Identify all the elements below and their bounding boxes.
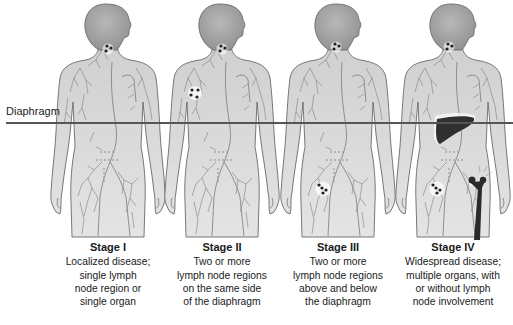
stage-description-line: above and below bbox=[278, 282, 398, 295]
stage-description-line: Widespread disease; bbox=[393, 255, 513, 268]
stage-description-line: Localized disease; bbox=[48, 255, 168, 268]
stage-description-line: Two or more bbox=[278, 255, 398, 268]
lymph-node-cluster-neck bbox=[444, 42, 455, 53]
stage-title: Stage III bbox=[278, 241, 398, 254]
stage-description-line: lymph node regions bbox=[278, 269, 398, 282]
lymph-node-cluster-neck bbox=[103, 44, 114, 55]
lymph-node-cluster-groin bbox=[430, 182, 445, 197]
stage-description-line: lymph node regions bbox=[162, 269, 282, 282]
diaphragm-line bbox=[6, 122, 513, 124]
stage-description-line: multiple organs, with bbox=[393, 269, 513, 282]
figure-stage-1 bbox=[51, 4, 165, 237]
lymph-node-cluster-neck bbox=[331, 42, 342, 53]
caption-stage-4: Stage IV Widespread disease; multiple or… bbox=[393, 241, 513, 308]
stage-description-line: single lymph bbox=[48, 269, 168, 282]
caption-stage-2: Stage II Two or more lymph node regions … bbox=[162, 241, 282, 308]
lymph-node-cluster-axilla bbox=[188, 86, 202, 100]
stage-description-line: node region or bbox=[48, 282, 168, 295]
figure-stage-3 bbox=[281, 4, 395, 237]
figure-stage-2 bbox=[165, 4, 279, 237]
stage-description-line: or without lymph bbox=[393, 282, 513, 295]
stage-description-line: Two or more bbox=[162, 255, 282, 268]
stage-title: Stage II bbox=[162, 241, 282, 254]
stage-description-line: on the same side bbox=[162, 282, 282, 295]
stage-title: Stage IV bbox=[393, 241, 513, 254]
diaphragm-label: Diaphragm bbox=[6, 105, 60, 117]
caption-stage-1: Stage I Localized disease; single lymph … bbox=[48, 241, 168, 308]
stage-description-line: single organ bbox=[48, 295, 168, 308]
stage-description-line: of the diaphragm bbox=[162, 295, 282, 308]
stage-description-line: node involvement bbox=[393, 295, 513, 308]
lymph-node-cluster-groin bbox=[316, 182, 331, 197]
stage-description-line: the diaphragm bbox=[278, 295, 398, 308]
caption-stage-3: Stage III Two or more lymph node regions… bbox=[278, 241, 398, 308]
stage-title: Stage I bbox=[48, 241, 168, 254]
lymph-node-cluster-neck bbox=[217, 44, 228, 55]
